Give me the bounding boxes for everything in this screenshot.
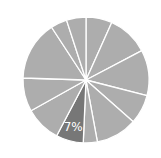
pie-chart: 7%: [0, 0, 161, 158]
pie-slices: [23, 17, 149, 143]
slice-label: 7%: [64, 120, 83, 134]
pie-labels: 7%: [64, 120, 83, 134]
